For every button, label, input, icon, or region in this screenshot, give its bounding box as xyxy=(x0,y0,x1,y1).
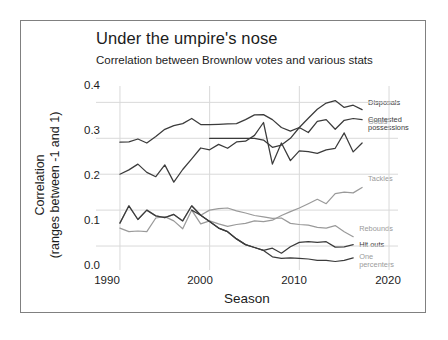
series-line-tackles xyxy=(120,188,362,232)
series-line-disposals xyxy=(120,101,362,143)
series-line-contested-possessions xyxy=(210,119,363,148)
chart-plot-area xyxy=(0,0,448,340)
series-line-goals xyxy=(120,123,362,183)
